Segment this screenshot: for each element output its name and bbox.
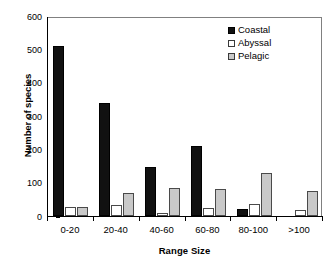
bars-layer bbox=[48, 18, 321, 216]
bar-abyssal-4060 bbox=[157, 213, 168, 216]
bar-coastal-020 bbox=[53, 46, 64, 216]
bar-abyssal-2040 bbox=[111, 205, 122, 216]
y-axis-tick-labels: 0100200300400500600 bbox=[14, 17, 42, 217]
x-tick-label: >100 bbox=[276, 224, 322, 235]
bar-abyssal-6080 bbox=[203, 208, 214, 216]
x-tick-mark bbox=[230, 217, 231, 221]
bar-abyssal-020 bbox=[65, 207, 76, 216]
bar-group bbox=[283, 18, 318, 216]
x-tick-mark bbox=[47, 217, 48, 221]
y-tick-label: 300 bbox=[14, 113, 42, 122]
y-tick-label: 200 bbox=[14, 146, 42, 155]
bar-group bbox=[191, 18, 226, 216]
legend-item-coastal: Coastal bbox=[228, 24, 271, 36]
x-tick-label: 80-100 bbox=[230, 224, 276, 235]
legend-item-label: Coastal bbox=[238, 25, 270, 35]
x-tick-label: 0-20 bbox=[47, 224, 93, 235]
bar-pelagic-2040 bbox=[123, 193, 134, 216]
x-tick-mark bbox=[93, 217, 94, 221]
bar-pelagic-6080 bbox=[215, 189, 226, 216]
bar-pelagic-100 bbox=[307, 191, 318, 216]
bar-group bbox=[99, 18, 134, 216]
bar-coastal-2040 bbox=[99, 103, 110, 216]
bar-coastal-80100 bbox=[237, 209, 248, 216]
x-tick-mark bbox=[322, 217, 323, 221]
bar-pelagic-80100 bbox=[261, 173, 272, 216]
legend-item-abyssal: Abyssal bbox=[228, 37, 271, 49]
bar-group bbox=[53, 18, 88, 216]
y-tick-label: 100 bbox=[14, 179, 42, 188]
bar-abyssal-100 bbox=[295, 210, 306, 216]
plot-area bbox=[47, 17, 322, 217]
empty-white-square-icon bbox=[228, 40, 235, 47]
bar-group bbox=[145, 18, 180, 216]
x-tick-label: 60-80 bbox=[185, 224, 231, 235]
x-axis-title: Range Size bbox=[47, 245, 322, 256]
y-tick-label: 600 bbox=[14, 13, 42, 22]
legend-item-label: Abyssal bbox=[238, 38, 271, 48]
x-tick-label: 40-60 bbox=[139, 224, 185, 235]
bar-coastal-4060 bbox=[145, 167, 156, 216]
legend-item-label: Pelagic bbox=[238, 51, 269, 61]
x-tick-mark bbox=[139, 217, 140, 221]
bar-chart: Number of species 0100200300400500600 0-… bbox=[0, 0, 330, 270]
x-tick-mark bbox=[185, 217, 186, 221]
legend-item-pelagic: Pelagic bbox=[228, 50, 271, 62]
bar-pelagic-020 bbox=[77, 207, 88, 216]
bar-abyssal-80100 bbox=[249, 204, 260, 216]
bar-coastal-6080 bbox=[191, 146, 202, 216]
x-tick-mark bbox=[276, 217, 277, 221]
y-tick-label: 500 bbox=[14, 46, 42, 55]
x-tick-label: 20-40 bbox=[93, 224, 139, 235]
bar-pelagic-4060 bbox=[169, 188, 180, 216]
y-tick-label: 0 bbox=[14, 213, 42, 222]
chart-legend: CoastalAbyssalPelagic bbox=[228, 24, 271, 63]
filled-black-square-icon bbox=[228, 27, 235, 34]
gray-square-icon bbox=[228, 53, 235, 60]
y-tick-label: 400 bbox=[14, 79, 42, 88]
